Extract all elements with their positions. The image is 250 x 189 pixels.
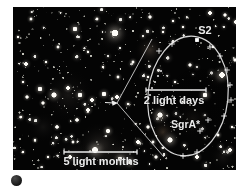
outer-scale-bar: [64, 150, 137, 155]
inner-scale-bar: [146, 88, 206, 93]
galactic-center-image: S2 2 light days SgrA* 5 light months: [13, 7, 236, 170]
callout-line-bottom: [117, 103, 164, 157]
sgra-position-arrow-icon: [105, 100, 118, 106]
list-bullet-icon: [11, 175, 22, 186]
s2-label: S2: [198, 24, 211, 36]
page: S2 2 light days SgrA* 5 light months: [0, 0, 250, 189]
outer-scale-label: 5 light months: [63, 155, 138, 167]
sgra-label: SgrA*: [171, 118, 201, 130]
inner-scale-label: 2 light days: [144, 94, 205, 106]
orbit-overlay: S2 2 light days SgrA* 5 light months: [13, 7, 236, 170]
